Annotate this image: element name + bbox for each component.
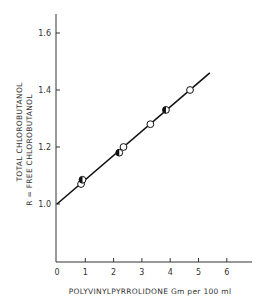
open-circle-marker <box>187 87 194 94</box>
y-tick-label: 1.4 <box>38 86 51 95</box>
x-tick-label: 6 <box>224 268 229 277</box>
half-filled-circle-marker <box>79 176 86 183</box>
x-tick-label: 2 <box>111 268 116 277</box>
x-tick-label: 5 <box>196 268 201 277</box>
half-filled-circle-marker <box>116 149 123 156</box>
chart: 01234561.01.21.41.6 POLYVINYLPYRROLIDONE… <box>0 0 268 304</box>
x-axis-label: POLYVINYLPYRROLIDONE Gm per 100 ml <box>69 287 232 296</box>
y-axis-label: TOTAL CHLOROBUTANOL R = FREE CHLOROBUTAN… <box>15 82 34 206</box>
y-tick-label: 1.6 <box>38 29 51 38</box>
open-circle-marker <box>147 121 154 128</box>
x-tick-label: 3 <box>139 268 144 277</box>
x-tick-label: 1 <box>83 268 88 277</box>
y-tick-label: 1.2 <box>38 143 51 152</box>
y-axis-label-line2: R = FREE CHLOROBUTANOL <box>25 94 34 206</box>
x-tick-label: 4 <box>168 268 173 277</box>
half-filled-circle-marker <box>163 107 170 114</box>
y-tick-label: 1.0 <box>38 200 51 209</box>
x-tick-label: 0 <box>54 268 59 277</box>
ticks: 01234561.01.21.41.6 <box>38 29 229 277</box>
y-axis-label-line1: TOTAL CHLOROBUTANOL <box>15 82 24 183</box>
axes <box>56 14 252 262</box>
